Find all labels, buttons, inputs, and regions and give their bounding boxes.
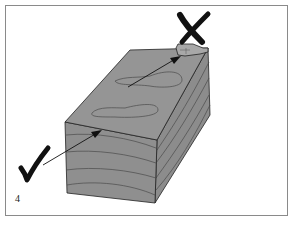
figure-number: 4 [15, 193, 20, 204]
x-mark-icon [180, 14, 208, 42]
wood-block-diagram [0, 0, 296, 225]
